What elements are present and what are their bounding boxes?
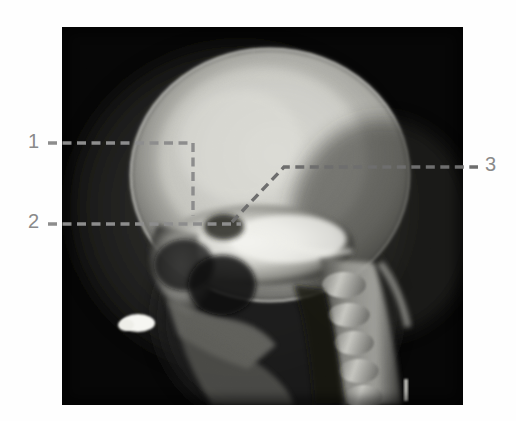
radiograph-image [62, 27, 463, 405]
callout-label-3: 3 [485, 154, 496, 174]
callout-label-2: 2 [28, 211, 39, 231]
figure-root: 1 2 3 [0, 0, 516, 421]
radiograph-canvas [62, 27, 463, 405]
film-grain [62, 27, 463, 405]
callout-label-1: 1 [28, 131, 39, 151]
radiograph-content [62, 27, 463, 405]
